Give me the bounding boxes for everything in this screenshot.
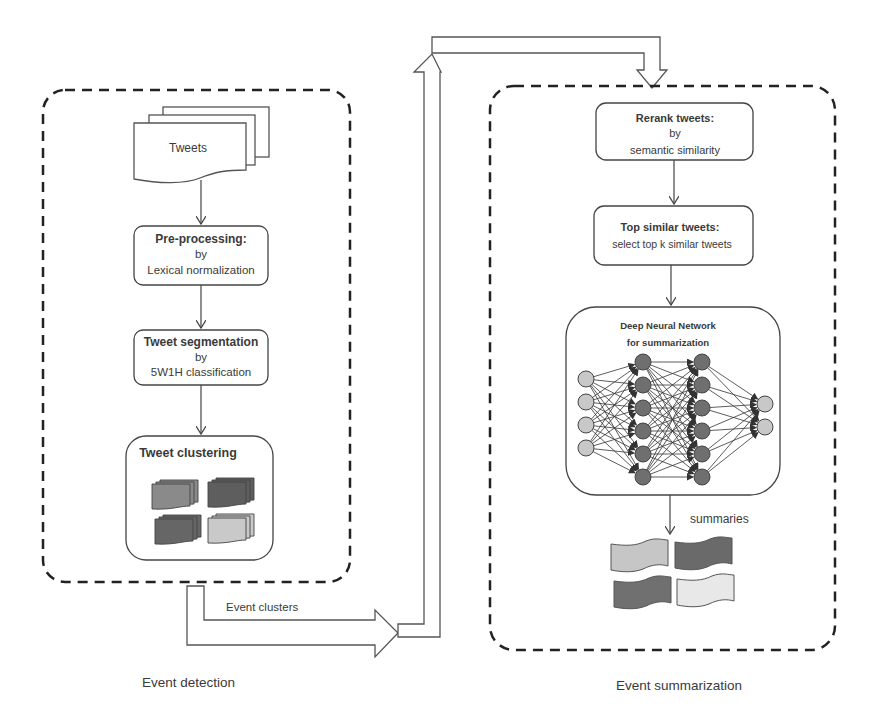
summary-document bbox=[675, 537, 732, 570]
nn-output-node bbox=[757, 419, 773, 435]
nn-input-node bbox=[578, 394, 594, 410]
top-similar-method: select top k similar tweets bbox=[612, 238, 732, 250]
preprocessing-by: by bbox=[195, 248, 207, 260]
segmentation-by: by bbox=[195, 351, 207, 363]
nn-hidden-node bbox=[635, 446, 651, 462]
nn-hidden-node bbox=[635, 423, 651, 439]
nn-input-node bbox=[578, 371, 594, 387]
summary-document bbox=[614, 576, 671, 609]
segmentation-title: Tweet segmentation bbox=[144, 335, 258, 349]
nn-hidden-node bbox=[635, 469, 651, 485]
nn-hidden-node bbox=[694, 469, 710, 485]
clustering-title: Tweet clustering bbox=[139, 446, 237, 460]
event-summarization-label: Event summarization bbox=[616, 678, 742, 693]
nn-hidden-node bbox=[694, 400, 710, 416]
nn-output-node bbox=[757, 396, 773, 412]
top-similar-box bbox=[594, 206, 753, 265]
nn-hidden-node bbox=[694, 354, 710, 370]
event-clusters-arrow bbox=[187, 586, 398, 657]
summary-document bbox=[611, 539, 668, 572]
nn-input-node bbox=[578, 417, 594, 433]
pipeline-diagram: Tweets Pre-processing: by Lexical normal… bbox=[0, 0, 873, 727]
rerank-method: semantic similarity bbox=[630, 144, 720, 156]
summary-document bbox=[677, 574, 734, 607]
top-similar-title: Top similar tweets: bbox=[621, 221, 720, 233]
dnn-title-line1: Deep Neural Network bbox=[620, 320, 716, 331]
event-clusters-label: Event clusters bbox=[226, 601, 298, 613]
segmentation-method: 5W1H classification bbox=[151, 366, 251, 378]
nn-hidden-node bbox=[694, 446, 710, 462]
nn-input-node bbox=[578, 440, 594, 456]
nn-hidden-node bbox=[694, 423, 710, 439]
event-detection-label: Event detection bbox=[142, 675, 235, 690]
pipe-connector bbox=[398, 54, 441, 637]
dnn-title-line2: for summarization bbox=[627, 337, 710, 348]
preprocessing-title: Pre-processing: bbox=[155, 232, 246, 246]
rerank-title: Rerank tweets: bbox=[636, 112, 714, 124]
nn-hidden-node bbox=[635, 354, 651, 370]
summary-documents bbox=[611, 537, 734, 609]
nn-hidden-node bbox=[635, 400, 651, 416]
summaries-label: summaries bbox=[690, 512, 749, 526]
rerank-by: by bbox=[669, 127, 681, 139]
preprocessing-method: Lexical normalization bbox=[147, 264, 254, 276]
nn-hidden-node bbox=[694, 377, 710, 393]
nn-hidden-node bbox=[635, 377, 651, 393]
dnn-box bbox=[566, 307, 780, 495]
tweets-label: Tweets bbox=[169, 141, 207, 155]
pipe-top-connector bbox=[432, 37, 667, 88]
